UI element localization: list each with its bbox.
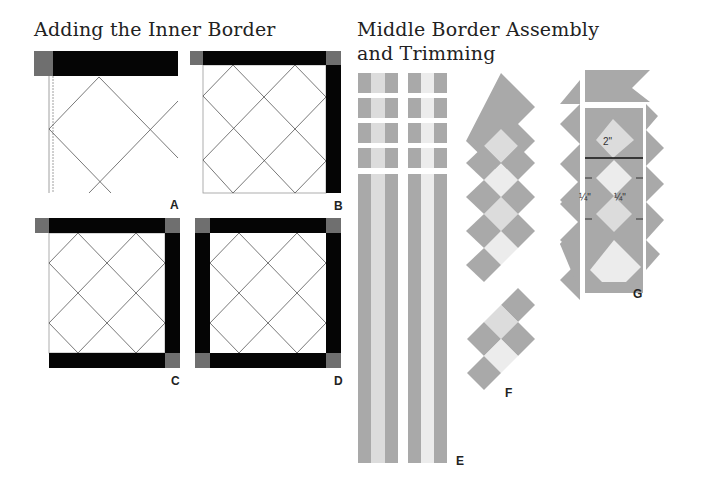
diagram-g: 2" ¼" ¼" [0, 0, 701, 479]
label-g: G [633, 287, 642, 301]
g-seam-left: ¼" [579, 192, 591, 203]
label-f: F [505, 386, 512, 400]
label-b: B [334, 199, 343, 213]
label-d: D [334, 374, 343, 388]
g-seam-right: ¼" [614, 192, 626, 203]
label-a: A [170, 198, 179, 212]
label-e: E [456, 454, 464, 468]
label-c: C [171, 374, 180, 388]
g-square-size: 2" [603, 136, 613, 147]
diagram-g-graphic: 2" ¼" ¼" [0, 0, 701, 479]
